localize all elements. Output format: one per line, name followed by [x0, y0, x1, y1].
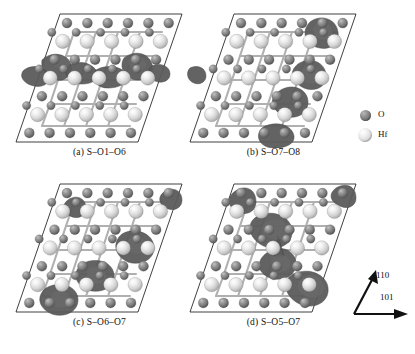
legend-item-oxygen: O — [352, 106, 414, 126]
atom-oxygen — [245, 101, 253, 109]
atom-hafnium — [315, 241, 329, 255]
atom-oxygen — [292, 91, 302, 101]
atom-oxygen — [325, 55, 335, 65]
atom-hafnium — [290, 71, 304, 85]
panel-a-structure — [12, 8, 187, 148]
atom-hafnium — [230, 34, 244, 48]
atom-oxygen — [62, 18, 72, 28]
atom-oxygen — [106, 298, 116, 308]
atom-oxygen — [272, 261, 282, 271]
atom-hafnium — [141, 71, 155, 85]
atom-oxygen — [313, 261, 323, 271]
atom-oxygen — [62, 188, 72, 198]
atom-oxygen — [270, 271, 278, 279]
atom-oxygen — [219, 128, 229, 138]
atom-oxygen — [85, 298, 95, 308]
atom-hafnium — [30, 277, 44, 291]
atom-oxygen — [338, 188, 348, 198]
atom-oxygen — [59, 65, 67, 73]
atom-oxygen — [256, 18, 266, 28]
atom-oxygen — [35, 65, 43, 73]
panel-c: (c) S–O6–O7 — [12, 178, 187, 346]
atom-oxygen — [221, 271, 229, 279]
atom-hafnium — [67, 71, 81, 85]
atom-oxygen — [111, 55, 121, 65]
atom-hafnium — [80, 204, 94, 218]
atom-oxygen — [35, 235, 43, 243]
atom-hafnium — [290, 241, 304, 255]
atom-hafnium — [129, 204, 143, 218]
atom-oxygen — [259, 128, 269, 138]
panel-c-structure — [12, 178, 187, 318]
atom-oxygen — [256, 188, 266, 198]
atom-oxygen — [222, 198, 230, 206]
atom-oxygen — [84, 235, 92, 243]
atom-hafnium — [153, 34, 167, 48]
atom-hafnium — [128, 277, 142, 291]
atom-oxygen — [85, 128, 95, 138]
atom-oxygen — [145, 28, 153, 36]
atom-oxygen — [131, 55, 141, 65]
atom-oxygen — [133, 235, 141, 243]
axis-indicator: 110 101 — [350, 262, 415, 324]
atom-oxygen — [143, 18, 153, 28]
atom-hafnium — [241, 71, 255, 85]
atom-hafnium — [217, 241, 231, 255]
atom-oxygen — [108, 235, 116, 243]
atom-oxygen — [98, 261, 108, 271]
atom-oxygen — [70, 225, 80, 235]
atom-oxygen — [231, 261, 241, 271]
atom-oxygen — [98, 91, 108, 101]
atom-oxygen — [84, 65, 92, 73]
atom-hafnium — [104, 204, 118, 218]
atom-oxygen — [233, 235, 241, 243]
atom-oxygen — [264, 55, 274, 65]
panel-d-caption: (d) S–O5–O7 — [186, 317, 361, 327]
atom-oxygen — [280, 128, 290, 138]
atom-oxygen — [90, 225, 100, 235]
atom-oxygen — [82, 188, 92, 198]
atom-hafnium — [229, 107, 243, 121]
atom-oxygen — [24, 128, 34, 138]
arrow-up-right-icon — [354, 270, 378, 314]
atom-oxygen — [90, 55, 100, 65]
atom-oxygen — [211, 261, 221, 271]
atom-oxygen — [246, 28, 254, 36]
panel-d-structure — [186, 178, 361, 318]
figure-root: (a) S–O1–O6 — [0, 0, 415, 354]
atom-oxygen — [294, 101, 302, 109]
atom-oxygen — [325, 225, 335, 235]
atom-oxygen — [164, 18, 174, 28]
atom-oxygen — [258, 235, 266, 243]
atom-hafnium — [141, 241, 155, 255]
atom-hafnium — [92, 71, 106, 85]
atom-hafnium — [56, 34, 70, 48]
atom-oxygen — [120, 101, 128, 109]
axis-label-101: 101 — [380, 292, 394, 302]
atom-hafnium — [241, 241, 255, 255]
atom-oxygen — [78, 91, 88, 101]
atom-hafnium — [116, 241, 130, 255]
atom-oxygen — [282, 65, 290, 73]
atom-oxygen — [71, 101, 79, 109]
atom-oxygen — [111, 225, 121, 235]
atom-oxygen — [272, 91, 282, 101]
atom-oxygen — [50, 55, 60, 65]
panel-a: (a) S–O1–O6 — [12, 8, 187, 176]
atom-oxygen — [145, 198, 153, 206]
atom-oxygen — [123, 188, 133, 198]
panel-b-caption: (b) S–O7–O8 — [186, 147, 361, 157]
atom-oxygen — [305, 55, 315, 65]
atom-hafnium — [128, 107, 142, 121]
atom-hafnium — [43, 71, 57, 85]
atom-oxygen — [300, 298, 310, 308]
atom-hafnium — [266, 71, 280, 85]
atom-oxygen — [317, 188, 327, 198]
legend-label-hafnium: Hf — [378, 129, 388, 139]
atom-oxygen — [231, 91, 241, 101]
atom-oxygen — [285, 55, 295, 65]
atom-hafnium — [43, 241, 57, 255]
atom-hafnium — [278, 277, 292, 291]
atom-hafnium — [104, 277, 118, 291]
atom-oxygen — [209, 65, 217, 73]
